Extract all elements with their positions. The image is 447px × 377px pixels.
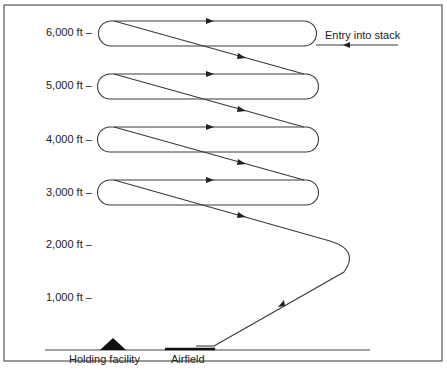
arrow-icon [343, 42, 350, 48]
holding-loop-5000 [98, 71, 319, 99]
holding-loop-6000 [98, 18, 316, 46]
arrow-icon [206, 177, 214, 183]
airfield-label: Airfield [171, 353, 205, 365]
holding-loop-3000 [98, 177, 319, 205]
altitude-label-5000: 5,000 ft – [46, 79, 93, 91]
diagram-frame [4, 5, 442, 361]
arrow-icon [206, 71, 214, 77]
altitude-label-2000: 2,000 ft – [46, 238, 93, 250]
holding-facility-label: Holding facility [69, 353, 140, 365]
holding-facility-icon [100, 338, 126, 350]
altitude-label-4000: 4,000 ft – [46, 133, 93, 145]
altitude-label-6000: 6,000 ft – [46, 26, 93, 38]
altitude-label-1000: 1,000 ft – [46, 291, 93, 303]
holding-loop-4000 [98, 124, 319, 152]
holding-stack-diagram: 6,000 ft – 5,000 ft – 4,000 ft – 3,000 f… [0, 0, 447, 377]
entry-label: Entry into stack [325, 29, 401, 41]
entry-path [316, 42, 398, 48]
altitude-label-3000: 3,000 ft – [46, 186, 93, 198]
arrow-icon [206, 18, 214, 24]
arrow-icon [206, 124, 214, 130]
